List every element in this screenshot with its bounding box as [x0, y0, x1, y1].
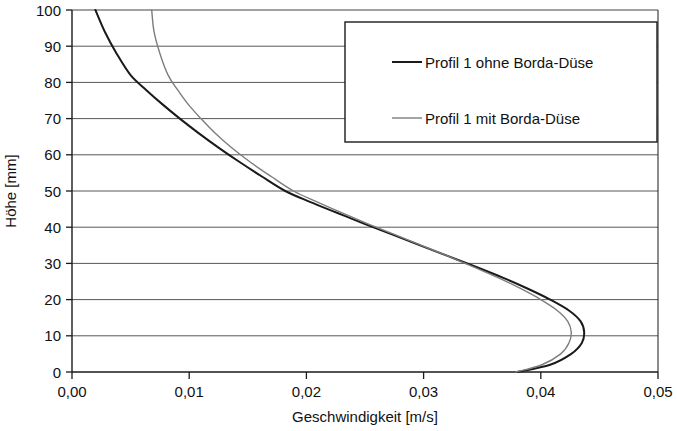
x-tick-label: 0,01 [175, 383, 204, 400]
x-tick-label: 0,00 [57, 383, 86, 400]
legend-label-0: Profil 1 ohne Borda-Düse [425, 54, 593, 71]
legend: Profil 1 ohne Borda-DüseProfil 1 mit Bor… [345, 22, 657, 142]
y-tick-label: 20 [44, 291, 61, 308]
velocity-profile-chart: 0102030405060708090100 0,000,010,020,030… [0, 0, 677, 431]
y-tick-label: 30 [44, 255, 61, 272]
legend-label-1: Profil 1 mit Borda-Düse [425, 110, 580, 127]
y-tick-label: 80 [44, 74, 61, 91]
y-tick-label: 100 [36, 2, 61, 19]
y-tick-label: 40 [44, 219, 61, 236]
x-axis-title: Geschwindigkeit [m/s] [292, 408, 438, 425]
y-tick-label: 0 [53, 364, 61, 381]
chart-container: 0102030405060708090100 0,000,010,020,030… [0, 0, 677, 431]
x-tick-label: 0,03 [409, 383, 438, 400]
x-tick-label: 0,05 [643, 383, 672, 400]
y-tick-label: 50 [44, 183, 61, 200]
y-tick-label: 60 [44, 146, 61, 163]
y-axis-title: Höhe [mm] [2, 154, 19, 227]
x-tick-label: 0,04 [526, 383, 555, 400]
y-tick-label: 10 [44, 327, 61, 344]
y-tick-label: 90 [44, 38, 61, 55]
x-tick-label: 0,02 [292, 383, 321, 400]
y-tick-label: 70 [44, 110, 61, 127]
